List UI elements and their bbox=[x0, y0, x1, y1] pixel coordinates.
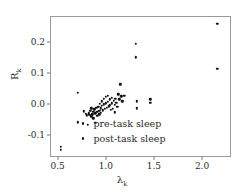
data-point bbox=[134, 42, 136, 44]
legend-item-post-task-sleep[interactable]: post-task sleep bbox=[78, 133, 165, 144]
legend-item-pre-task-sleep[interactable]: pre-task sleep bbox=[78, 118, 165, 129]
data-point bbox=[135, 100, 137, 102]
x-tick-mark bbox=[105, 157, 106, 160]
data-point bbox=[115, 101, 117, 103]
y-tick-label: -0.1 bbox=[28, 130, 45, 140]
scatter-plot-figure: 0.51.01.52.0 -0.10.00.10.2 λk Rk pre-tas… bbox=[0, 0, 244, 192]
data-point bbox=[135, 107, 137, 109]
y-axis-label: Rk bbox=[9, 69, 23, 80]
data-point bbox=[149, 101, 151, 103]
data-point bbox=[103, 98, 105, 100]
data-point bbox=[114, 97, 116, 99]
data-point bbox=[216, 67, 218, 69]
x-tick-mark bbox=[202, 157, 203, 160]
legend-label: post-task sleep bbox=[93, 133, 165, 144]
data-point bbox=[110, 96, 112, 98]
legend-marker-icon bbox=[82, 137, 84, 139]
y-tick-label: 0.0 bbox=[31, 99, 45, 109]
legend-marker-icon bbox=[82, 122, 84, 124]
legend: pre-task sleep post-task sleep bbox=[78, 118, 165, 144]
y-tick-mark bbox=[47, 134, 50, 135]
data-point bbox=[107, 101, 109, 103]
y-tick-mark bbox=[47, 42, 50, 43]
x-axis-label: λk bbox=[0, 174, 244, 188]
x-tick-label: 1.0 bbox=[99, 161, 113, 171]
x-axis-label-subscript: k bbox=[123, 180, 127, 188]
x-tick-mark bbox=[153, 157, 154, 160]
y-axis-label-subscript: k bbox=[15, 69, 23, 73]
data-point bbox=[116, 106, 118, 108]
data-point bbox=[100, 112, 102, 114]
data-point bbox=[109, 98, 111, 100]
x-tick-mark bbox=[57, 157, 58, 160]
data-point bbox=[119, 83, 121, 85]
data-point bbox=[59, 146, 61, 148]
data-point bbox=[134, 56, 136, 58]
y-axis-label-text: R bbox=[9, 72, 20, 80]
x-tick-label: 2.0 bbox=[195, 161, 209, 171]
legend-label: pre-task sleep bbox=[93, 118, 161, 129]
data-point bbox=[113, 111, 115, 113]
y-tick-mark bbox=[47, 104, 50, 105]
data-point bbox=[77, 91, 79, 93]
data-point bbox=[111, 108, 113, 110]
y-tick-label: 0.2 bbox=[31, 37, 45, 47]
data-point bbox=[107, 95, 109, 97]
x-tick-label: 1.5 bbox=[147, 161, 161, 171]
data-point bbox=[149, 98, 151, 100]
y-tick-mark bbox=[47, 73, 50, 74]
x-tick-label: 0.5 bbox=[51, 161, 65, 171]
data-point bbox=[101, 100, 103, 102]
data-point bbox=[216, 23, 218, 25]
y-tick-label: 0.1 bbox=[31, 68, 45, 78]
data-point bbox=[59, 149, 61, 151]
data-point bbox=[123, 95, 125, 97]
data-point bbox=[121, 100, 123, 102]
